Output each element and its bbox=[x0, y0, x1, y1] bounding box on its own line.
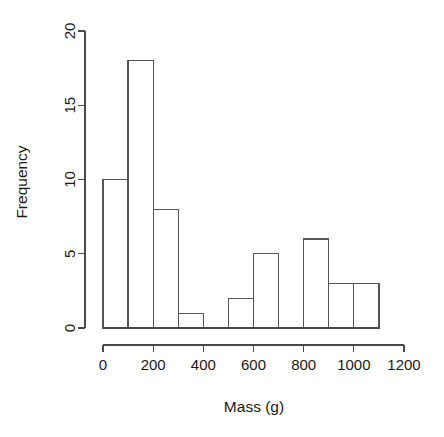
x-axis-tick-label: 800 bbox=[291, 356, 316, 373]
histogram-bar bbox=[178, 313, 203, 328]
y-axis-tick-label: 10 bbox=[61, 171, 78, 188]
x-axis-tick-label: 600 bbox=[241, 356, 266, 373]
x-axis-tick-label: 0 bbox=[99, 356, 107, 373]
histogram-bar bbox=[254, 254, 279, 328]
x-axis-tick-label: 400 bbox=[191, 356, 216, 373]
histogram-bar bbox=[354, 283, 379, 328]
plot-background bbox=[0, 0, 444, 437]
y-axis-tick-label: 20 bbox=[61, 23, 78, 40]
y-axis-tick-label: 15 bbox=[61, 97, 78, 114]
x-axis-tick-label: 1000 bbox=[337, 356, 370, 373]
histogram-bar bbox=[329, 283, 354, 328]
y-axis-tick-label: 5 bbox=[61, 250, 78, 258]
histogram-bar bbox=[228, 298, 253, 328]
chart-canvas: 05101520 020040060080010001200 Frequency… bbox=[0, 0, 444, 437]
histogram-bar bbox=[103, 180, 128, 329]
y-axis-title: Frequency bbox=[13, 145, 30, 218]
x-axis-title: Mass (g) bbox=[224, 398, 284, 415]
histogram-bar bbox=[153, 209, 178, 328]
x-axis-tick-label: 1200 bbox=[387, 356, 420, 373]
histogram-bar bbox=[128, 61, 153, 328]
histogram-plot: 05101520 020040060080010001200 Frequency… bbox=[0, 0, 444, 437]
y-axis-tick-label: 0 bbox=[61, 324, 78, 332]
x-axis-tick-label: 200 bbox=[141, 356, 166, 373]
histogram-bar bbox=[304, 239, 329, 328]
